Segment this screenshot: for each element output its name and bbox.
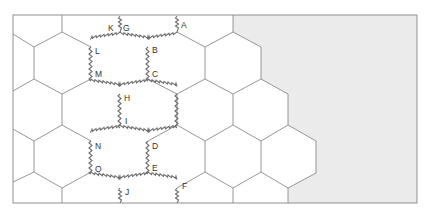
vertex-label-g: G [123,23,130,33]
vertex-label-l: L [95,46,100,56]
vertex-label-f: F [182,181,187,191]
vertex-label-b: B [152,45,158,55]
vertex-labels: A B C D E F G H I J K L M N O [95,20,187,197]
shaded-region [233,15,417,203]
vertex-label-c: C [152,69,158,79]
vertex-label-d: D [152,141,158,151]
cut-path [89,16,179,203]
vertex-label-h: H [124,93,130,103]
vertex-label-a: A [181,20,187,30]
vertex-label-j: J [125,187,129,197]
vertex-label-k: K [108,23,114,33]
vertex-label-o: O [95,164,102,174]
vertex-label-m: M [95,69,102,79]
hexagon-grid-diagram: A B C D E F G H I J K L M N O [0,0,429,217]
vertex-label-i: I [125,116,127,126]
vertex-label-e: E [152,163,158,173]
vertex-label-n: N [95,141,101,151]
